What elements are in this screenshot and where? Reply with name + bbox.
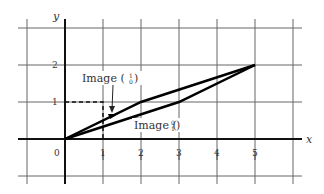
label-image-e2: Image ( 0 1 ) [132,118,186,132]
svg-text:5: 5 [252,148,258,158]
label-image-e1: Image ( 1 0 ) [80,71,144,85]
diagram-canvas: x y 0 1 2 3 4 5 1 2 Image ( 1 0 ) Image … [0,0,324,194]
pointer-arrow-icon [109,106,115,113]
linear-map-diagram: x y 0 1 2 3 4 5 1 2 Image ( 1 0 ) Image … [0,0,324,194]
svg-text:1: 1 [100,148,106,158]
svg-text:0: 0 [54,148,60,158]
svg-text:1: 1 [171,125,175,132]
svg-text:4: 4 [214,148,220,158]
svg-text:): ) [176,119,180,132]
svg-text:0: 0 [129,78,133,85]
grid [18,19,302,184]
label-pointer [109,85,115,113]
svg-text:3: 3 [176,148,182,158]
svg-text:1: 1 [52,97,58,107]
y-tick-labels: 1 2 [52,60,58,107]
svg-text:2: 2 [138,148,144,158]
x-axis-label: x [306,133,313,146]
x-tick-labels: 0 1 2 3 4 5 [54,148,258,158]
svg-text:Image (: Image ( [82,72,125,85]
svg-text:2: 2 [52,60,58,70]
y-axis-label: y [52,10,60,23]
svg-text:): ) [134,72,138,85]
